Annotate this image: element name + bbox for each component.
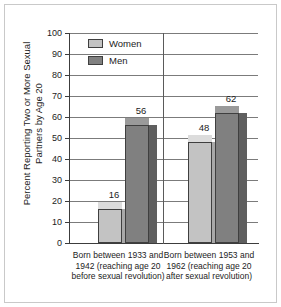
y-axis-tick-label: 40 bbox=[22, 155, 62, 164]
bar-front-face bbox=[125, 125, 149, 243]
y-axis-tick-label: 30 bbox=[22, 176, 62, 185]
chart-legend: Women Men bbox=[88, 36, 142, 70]
bar-men-group1[interactable] bbox=[125, 118, 149, 243]
y-axis-tick-label: 100 bbox=[22, 29, 62, 38]
legend-item-men[interactable]: Men bbox=[88, 53, 142, 67]
bar-side-face bbox=[149, 125, 157, 243]
y-axis-tick-label: 50 bbox=[22, 134, 62, 143]
bar-top-face bbox=[188, 135, 212, 142]
bar-women-group1[interactable] bbox=[98, 202, 122, 243]
y-axis-tick-label: 0 bbox=[22, 239, 62, 248]
y-axis-tick-label: 20 bbox=[22, 197, 62, 206]
bar-value-label: 62 bbox=[211, 94, 251, 104]
bar-top-face bbox=[215, 106, 239, 113]
x-axis-line bbox=[69, 243, 259, 244]
y-axis-tick-label: 80 bbox=[22, 71, 62, 80]
bar-top-face bbox=[125, 118, 149, 125]
legend-label-women: Women bbox=[109, 38, 142, 49]
legend-swatch-icon bbox=[88, 39, 103, 48]
bar-women-group2[interactable] bbox=[188, 135, 212, 243]
y-axis-tick-label: 60 bbox=[22, 113, 62, 122]
x-axis-category-label: Born between 1933 and 1942 (reaching age… bbox=[70, 250, 166, 282]
bar-value-label: 48 bbox=[184, 123, 224, 133]
bar-value-label: 16 bbox=[94, 190, 134, 200]
x-axis-category-label: Born between 1953 and 1962 (reaching age… bbox=[161, 250, 257, 282]
bar-chart-figure: Percent Reporting Two or More Sexual Par… bbox=[0, 0, 281, 307]
y-axis-tick-label: 10 bbox=[22, 218, 62, 227]
legend-label-men: Men bbox=[109, 55, 127, 66]
bar-front-face bbox=[188, 142, 212, 243]
legend-swatch-icon bbox=[88, 56, 103, 65]
y-axis-tick-label: 70 bbox=[22, 92, 62, 101]
bar-front-face bbox=[98, 209, 122, 243]
legend-item-women[interactable]: Women bbox=[88, 36, 142, 50]
bar-value-label: 56 bbox=[121, 106, 161, 116]
y-axis-tick-label: 90 bbox=[22, 50, 62, 59]
bar-side-face bbox=[239, 113, 247, 243]
bar-top-face bbox=[98, 202, 122, 209]
